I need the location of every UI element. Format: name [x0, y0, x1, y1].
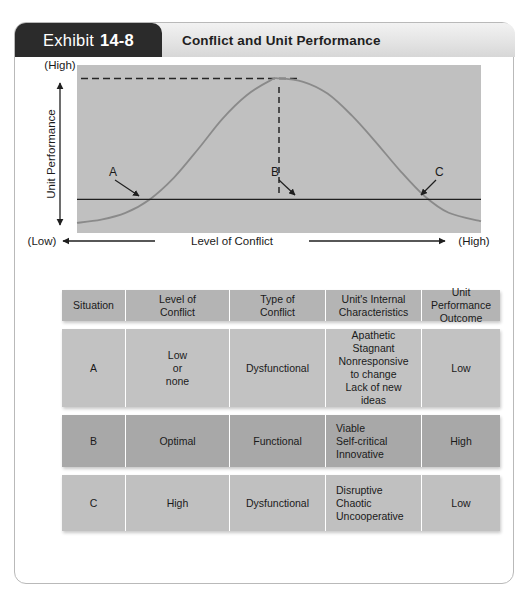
y-axis-low-label: (Low) [28, 235, 57, 247]
y-axis-label: Unit Performance [45, 109, 57, 198]
table-row: A Low or none Dysfunctional Apathetic St… [62, 329, 500, 407]
table-row: B Optimal Functional Viable Self-critica… [62, 415, 500, 467]
x-axis-high-label: (High) [458, 235, 489, 247]
column-header-type-of-conflict: Type of Conflict [230, 290, 326, 321]
cell-level-a: Low or none [126, 329, 230, 407]
cell-internal-a: Apathetic Stagnant Nonresponsive to chan… [326, 329, 422, 407]
chart-svg: A B C Unit Performance (High) (Low) Leve… [15, 57, 515, 289]
exhibit-header: Exhibit 14-8 Conflict and Unit Performan… [15, 23, 515, 57]
table-row: C High Dysfunctional Disruptive Chaotic … [62, 475, 500, 531]
cell-level-b: Optimal [126, 415, 230, 467]
cell-type-c: Dysfunctional [230, 475, 326, 531]
exhibit-card: Exhibit 14-8 Conflict and Unit Performan… [14, 22, 514, 584]
exhibit-badge: Exhibit 14-8 [15, 23, 162, 57]
comparison-table: Situation Level of Conflict Type of Conf… [62, 290, 500, 539]
column-header-performance-outcome: Unit Performance Outcome [422, 290, 500, 321]
column-header-situation: Situation [62, 290, 126, 321]
annotation-label-a: A [109, 165, 117, 179]
cell-situation-b: B [62, 415, 126, 467]
x-axis-label: Level of Conflict [191, 235, 274, 247]
column-header-internal-characteristics: Unit's Internal Characteristics [326, 290, 422, 321]
cell-outcome-a: Low [422, 329, 500, 407]
cell-situation-c: C [62, 475, 126, 531]
exhibit-badge-number: 14-8 [100, 31, 134, 50]
cell-type-a: Dysfunctional [230, 329, 326, 407]
conflict-performance-chart: A B C Unit Performance (High) (Low) Leve… [15, 57, 515, 289]
annotation-label-c: C [435, 165, 444, 179]
cell-internal-c: Disruptive Chaotic Uncooperative [326, 475, 422, 531]
cell-situation-a: A [62, 329, 126, 407]
exhibit-title: Conflict and Unit Performance [182, 23, 381, 57]
column-header-level-of-conflict: Level of Conflict [126, 290, 230, 321]
table-header-row: Situation Level of Conflict Type of Conf… [62, 290, 500, 321]
y-axis-high-label: (High) [44, 59, 75, 71]
cell-outcome-b: High [422, 415, 500, 467]
annotation-label-b: B [271, 165, 279, 179]
cell-outcome-c: Low [422, 475, 500, 531]
cell-internal-b: Viable Self-critical Innovative [326, 415, 422, 467]
exhibit-badge-word: Exhibit [43, 31, 94, 50]
cell-level-c: High [126, 475, 230, 531]
cell-type-b: Functional [230, 415, 326, 467]
